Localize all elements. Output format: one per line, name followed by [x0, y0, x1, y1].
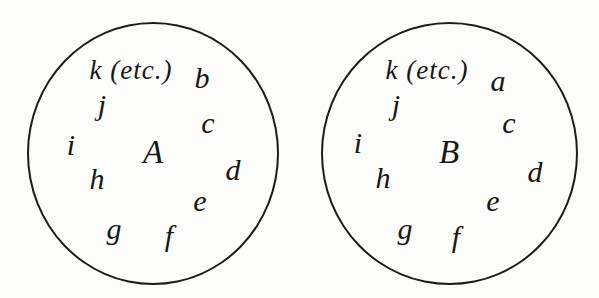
member-letter-h: h — [90, 164, 105, 194]
member-letter-b: b — [195, 63, 210, 93]
member-letter-j: j — [392, 90, 400, 120]
member-letter-k-etc: k (etc.) — [386, 57, 469, 84]
two-set-diagram: A B k (etc.)bjcidhegfk (etc.)ajcidhegf — [0, 0, 599, 298]
member-letter-k-etc: k (etc.) — [90, 57, 173, 84]
member-letter-c: c — [201, 108, 214, 138]
member-letter-h: h — [376, 163, 391, 193]
member-letter-d: d — [226, 155, 241, 185]
member-letter-e: e — [486, 186, 499, 216]
member-letter-i: i — [354, 128, 362, 158]
set-label-b: B — [439, 136, 459, 169]
member-letter-g: g — [398, 214, 413, 244]
set-label-a: A — [143, 136, 163, 169]
member-letter-i: i — [67, 130, 75, 160]
member-letter-g: g — [107, 214, 122, 244]
member-letter-f: f — [452, 222, 460, 252]
member-letter-c: c — [502, 108, 515, 138]
member-letter-a: a — [491, 66, 506, 96]
member-letter-f: f — [165, 221, 173, 251]
member-letter-j: j — [98, 90, 106, 120]
member-letter-d: d — [528, 157, 543, 187]
member-letter-e: e — [193, 186, 206, 216]
